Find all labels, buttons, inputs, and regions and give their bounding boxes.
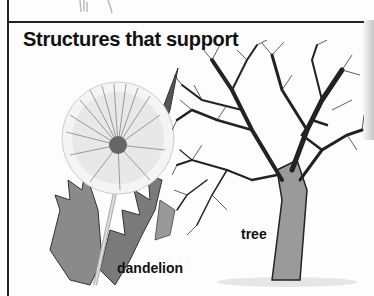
tree-label: tree xyxy=(241,226,267,242)
dandelion-illustration-icon xyxy=(30,60,190,290)
textbook-page: Structures that support xyxy=(0,0,374,296)
section-divider xyxy=(8,21,364,23)
dandelion-label: dandelion xyxy=(117,260,183,276)
tree-illustration-icon xyxy=(172,40,364,290)
page-left-border xyxy=(7,0,9,296)
previous-figure-remnant-icon xyxy=(78,0,124,14)
